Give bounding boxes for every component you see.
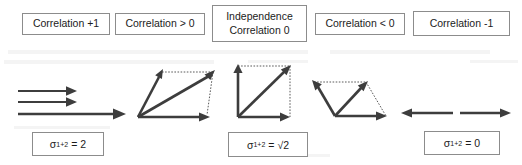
parallelogram-guides [314, 82, 386, 116]
label-line-1: Independence [226, 10, 293, 23]
sigma-equals: = [268, 139, 274, 151]
vector-1 [233, 64, 242, 117]
label-box-correlation-minus-one[interactable]: Correlation -1 [413, 11, 510, 36]
sigma-value: 0 [474, 137, 480, 149]
label-line-1: Correlation < 0 [325, 17, 394, 30]
label-box-correlation-greater-zero[interactable]: Correlation > 0 [115, 13, 205, 35]
vector-1 [138, 69, 163, 117]
scan-artifact [470, 60, 518, 63]
vector-2 [335, 81, 368, 116]
resultant-vector [18, 109, 126, 120]
sigma-subscript: 1+2 [56, 141, 68, 148]
diagram-right-angle-square [234, 62, 296, 122]
sigma-subscript: 1+2 [450, 140, 462, 147]
label-line-1: Correlation > 0 [125, 17, 194, 30]
scan-artifact [4, 60, 214, 64]
scan-artifact [248, 60, 308, 63]
resultant-vector [138, 70, 215, 117]
scan-artifact [8, 50, 308, 54]
sigma-equals: = [465, 137, 471, 149]
sigma-box-equals-0[interactable]: σ1+2=0 [424, 131, 500, 155]
label-line-2: Correlation 0 [229, 24, 289, 37]
parallelogram-guides [162, 72, 213, 115]
sigma-box-equals-2[interactable]: σ1+2=2 [32, 132, 104, 156]
vector-2 [138, 113, 210, 122]
scan-artifact [14, 126, 110, 129]
label-box-independence[interactable]: Independence Correlation 0 [212, 5, 307, 42]
label-line-1: Correlation -1 [430, 17, 494, 30]
label-box-correlation-less-zero[interactable]: Correlation < 0 [315, 13, 405, 35]
sigma-value: √2 [277, 139, 289, 151]
sigma-subscript: 1+2 [253, 141, 265, 148]
label-box-correlation-plus-one[interactable]: Correlation +1 [22, 13, 110, 35]
diagram-acute-parallelogram [133, 62, 225, 124]
sigma-value: 2 [80, 138, 86, 150]
diagram-anti-collinear [398, 106, 514, 122]
sigma-box-equals-sqrt2[interactable]: σ1+2=√2 [228, 132, 308, 157]
resultant-vector [335, 112, 387, 121]
vector-1 [401, 108, 453, 117]
scan-artifact [330, 50, 490, 54]
vector-2 [238, 113, 290, 122]
diagram-obtuse-parallelogram [306, 76, 398, 124]
square-guides [238, 66, 290, 117]
resultant-vector [238, 65, 291, 117]
vector-2 [460, 108, 511, 117]
vector-1 [312, 80, 335, 116]
figure-canvas: Correlation +1 Correlation > 0 Independe… [0, 0, 522, 165]
vector-2 [18, 97, 77, 106]
vector-1 [18, 86, 77, 95]
sigma-equals: = [71, 138, 77, 150]
diagram-collinear-same-direction [16, 86, 131, 126]
label-line-1: Correlation +1 [33, 17, 99, 30]
